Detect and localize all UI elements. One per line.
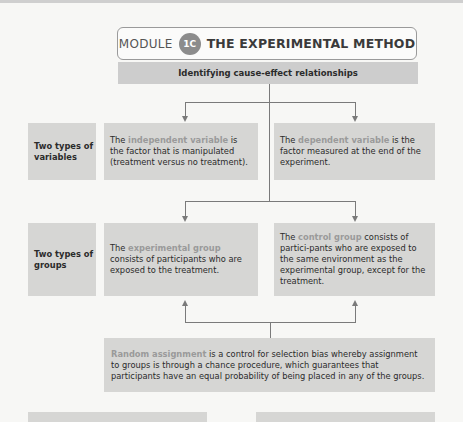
independent-variable-box: The independent variable is the factor t…: [104, 123, 258, 180]
box-text: The experimental group consists of parti…: [110, 243, 252, 276]
module-number-badge: 1C: [179, 33, 201, 55]
connector-row1-right-drop: [355, 102, 356, 117]
module-title-box: MODULE 1C THE EXPERIMENTAL METHOD: [117, 27, 417, 60]
connector-up-left: [185, 305, 186, 322]
connector-row2-right-drop: [355, 201, 356, 217]
row-label-text: Two types of groups: [34, 249, 96, 271]
random-assignment-box: Random assignment is a control for selec…: [104, 338, 435, 392]
term-dependent-variable: dependent variable: [298, 135, 389, 145]
dependent-variable-box: The dependent variable is the factor mea…: [274, 123, 435, 180]
term-experimental-group: experimental group: [128, 243, 221, 253]
row-label-variables: Two types of variables: [28, 123, 96, 180]
connector-row1-horizontal: [185, 102, 355, 103]
term-independent-variable: independent variable: [128, 135, 228, 145]
term-control-group: control group: [298, 232, 362, 242]
arrow-down-icon: [182, 216, 188, 222]
top-edge-strip: [0, 0, 463, 3]
box-text: The dependent variable is the factor mea…: [280, 135, 429, 168]
module-word: MODULE: [119, 37, 173, 51]
arrow-down-icon: [352, 116, 358, 122]
box-text: The control group consists of partici-pa…: [280, 232, 429, 287]
connector-row2-left-drop: [185, 201, 186, 217]
module-subtitle: Identifying cause-effect relationships: [118, 62, 418, 84]
row-label-groups: Two types of groups: [28, 223, 96, 296]
connector-row2-horizontal: [185, 201, 355, 202]
bottom-right-partial-box: [256, 412, 435, 422]
arrow-down-icon: [182, 116, 188, 122]
connector-up-right: [355, 305, 356, 322]
experimental-group-box: The experimental group consists of parti…: [104, 223, 258, 296]
connector-up-stem: [270, 322, 271, 338]
term-random-assignment: Random assignment: [111, 349, 206, 359]
arrow-down-icon: [352, 216, 358, 222]
row-label-text: Two types of variables: [34, 141, 96, 163]
box-text: The independent variable is the factor t…: [110, 135, 252, 168]
module-title: THE EXPERIMENTAL METHOD: [207, 36, 416, 51]
connector-row1-left-drop: [185, 102, 186, 117]
control-group-box: The control group consists of partici-pa…: [274, 223, 435, 296]
box-text: Random assignment is a control for selec…: [111, 349, 428, 382]
bottom-left-partial-box: [28, 412, 207, 422]
